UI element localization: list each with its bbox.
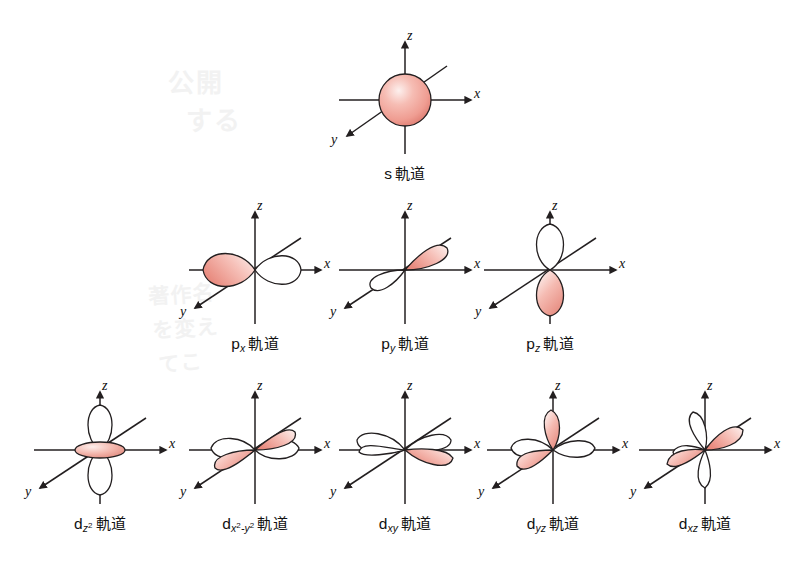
orbital-subscript-py: y — [390, 342, 395, 354]
dxz-lobe-upper-right — [705, 427, 743, 450]
axis-label-y: y — [328, 484, 337, 499]
axes-dxy — [339, 392, 471, 504]
dxy-lobe-lower-right — [405, 449, 453, 465]
orbital-label-py: py軌道 — [325, 332, 485, 354]
axis-label-z: z — [551, 198, 558, 213]
orbital-label-dz2: dz2軌道 — [20, 512, 180, 534]
axis-label-z: z — [554, 378, 561, 393]
dx2y2-orbital-svg: z x y — [175, 378, 335, 510]
orbital-art-dyz: z x y — [473, 378, 633, 510]
px-lobe-positive — [255, 256, 301, 285]
axis-label-y: y — [178, 484, 187, 499]
orbital-superscript-dz2: 2 — [88, 521, 93, 530]
dz2-torus-ring — [75, 442, 125, 458]
dxz-lobe-upper-left — [689, 412, 706, 450]
px-orbital-svg: z x y — [175, 198, 335, 330]
orbital-symbol-pz: p — [526, 335, 535, 352]
py-orbital-svg: z x y — [325, 198, 485, 330]
orbital-symbol-px: p — [231, 335, 240, 352]
orbital-suffix-dxz: 軌道 — [701, 515, 731, 533]
orbital-subscript-dyz: yz — [535, 522, 546, 534]
orbital-symbol-dx2y2: d — [222, 515, 231, 532]
axis-label-y: y — [628, 484, 637, 499]
orbital-label-dxz: dxz軌道 — [625, 512, 785, 534]
axis-label-x: x — [618, 256, 626, 271]
orbital-art-dx2y2: z x y — [175, 378, 335, 510]
orbital-cell-pz: z x y pz軌道 — [470, 198, 630, 354]
axis-label-x: x — [473, 86, 481, 101]
orbitals-figure: 公開 する 著作名 を変え てこ — [0, 0, 811, 569]
axis-label-z: z — [101, 378, 108, 393]
orbital-cell-dyz: z x y dyz軌道 — [473, 378, 633, 534]
axis-label-z: z — [256, 378, 263, 393]
axis-label-z: z — [406, 198, 413, 213]
s-orbital-sphere — [379, 74, 431, 126]
orbital-symbol-py: p — [381, 335, 390, 352]
orbital-subscript-pz: z — [535, 342, 540, 354]
orbital-suffix-pz: 軌道 — [543, 335, 573, 353]
axis-label-y: y — [178, 304, 187, 319]
orbital-label-dxy: dxy軌道 — [325, 512, 485, 534]
orbital-label-px: px軌道 — [175, 332, 335, 354]
axes-py — [339, 212, 471, 324]
orbital-symbol-dz2: d — [74, 515, 83, 532]
orbital-suffix-dxy: 軌道 — [401, 515, 431, 533]
orbital-suffix-dyz: 軌道 — [549, 515, 579, 533]
px-lobe-negative — [203, 254, 255, 287]
orbital-suffix-dx2y2: 軌道 — [257, 515, 287, 533]
py-lobe-negative — [370, 270, 405, 291]
orbital-cell-dx2y2: z x y dx2-y2軌道 — [175, 378, 335, 534]
orbital-suffix-s: 軌道 — [395, 165, 425, 183]
pz-lobe-positive — [537, 224, 564, 270]
watermark-line-2: する — [186, 100, 242, 137]
orbital-subscript-px: x — [240, 342, 245, 354]
orbital-cell-px: z x y px軌道 — [175, 198, 335, 354]
orbital-art-dxy: z x y — [325, 378, 485, 510]
orbital-art-s: z x y — [325, 28, 485, 160]
axis-label-z: z — [256, 198, 263, 213]
orbital-cell-dxy: z x y dxy軌道 — [325, 378, 485, 534]
pz-lobe-negative — [537, 270, 564, 316]
axis-label-x: x — [773, 436, 781, 451]
axis-label-y: y — [473, 304, 482, 319]
orbital-suffix-px: 軌道 — [248, 335, 278, 353]
py-lobe-positive — [405, 245, 448, 270]
orbital-art-pz: z x y — [470, 198, 630, 330]
dxz-orbital-svg: z x y — [625, 378, 785, 510]
axis-label-y: y — [476, 484, 485, 499]
axes-dx2y2 — [189, 392, 321, 504]
dxz-lobe-lower-right-white — [698, 450, 710, 488]
orbital-suffix-dz2: 軌道 — [96, 515, 126, 533]
orbital-art-dxz: z x y — [625, 378, 785, 510]
orbital-label-dyz: dyz軌道 — [473, 512, 633, 534]
orbital-subscript-dxy: xy — [387, 522, 398, 534]
orbital-subscript-dxz: xz — [687, 522, 698, 534]
watermark-line-1: 公開 — [168, 62, 224, 99]
axis-label-z: z — [406, 378, 413, 393]
orbital-art-dz2: z x y — [20, 378, 180, 510]
orbital-cell-dz2: z x y dz2軌道 — [20, 378, 180, 534]
orbital-cell-s: z x y s軌道 — [325, 28, 485, 183]
dyz-orbital-svg: z x y — [473, 378, 633, 510]
orbital-label-s: s軌道 — [325, 162, 485, 183]
orbital-symbol-s: s — [384, 165, 392, 182]
axis-label-z: z — [706, 378, 713, 393]
orbital-label-pz: pz軌道 — [470, 332, 630, 354]
orbital-art-py: z x y — [325, 198, 485, 330]
axis-label-z: z — [406, 28, 413, 43]
dyz-lobe-right — [553, 441, 595, 458]
s-orbital-svg: z x y — [325, 28, 485, 160]
axis-label-y: y — [329, 132, 338, 147]
orbital-suffix-py: 軌道 — [398, 335, 428, 353]
dxy-orbital-svg: z x y — [325, 378, 485, 510]
pz-orbital-svg: z x y — [470, 198, 630, 330]
orbital-art-px: z x y — [175, 198, 335, 330]
axis-label-y: y — [23, 484, 32, 499]
axis-label-y: y — [328, 304, 337, 319]
orbital-cell-py: z x y py軌道 — [325, 198, 485, 354]
orbital-label-dx2y2: dx2-y2軌道 — [175, 512, 335, 534]
dz2-orbital-svg: z x y — [20, 378, 180, 510]
orbital-cell-dxz: z x y dxz軌道 — [625, 378, 785, 534]
